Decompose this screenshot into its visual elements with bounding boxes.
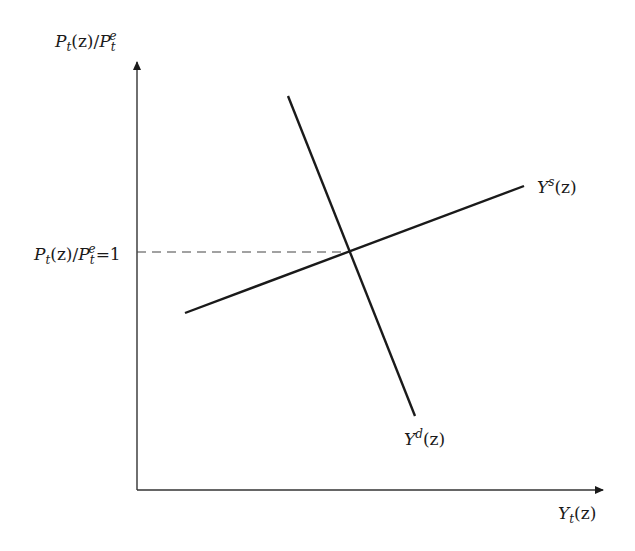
- eq-label-main: P: [34, 244, 45, 264]
- eq-label-value: =1: [96, 244, 121, 264]
- supply-label-arg: (z): [554, 177, 576, 197]
- eq-label-main2: P: [78, 244, 89, 264]
- demand-label: Yd(z): [404, 428, 445, 448]
- equilibrium-label: Pt(z)/Pte=1: [34, 243, 121, 266]
- supply-curve: [185, 186, 524, 313]
- y-axis-label: Pt(z)/Pte: [55, 30, 117, 53]
- x-label-main: Y: [558, 503, 569, 523]
- demand-label-sup: d: [415, 427, 423, 441]
- x-axis-label: Yt(z): [558, 505, 596, 525]
- supply-demand-diagram: [0, 0, 635, 551]
- demand-label-arg: (z): [423, 429, 445, 449]
- y-label-sup2: e: [110, 29, 117, 43]
- y-label-main2: P: [99, 31, 110, 51]
- eq-label-arg: (z)/: [50, 244, 78, 264]
- demand-label-main: Y: [404, 429, 415, 449]
- x-label-arg: (z): [574, 503, 596, 523]
- supply-label: Ys(z): [537, 176, 577, 196]
- eq-label-sup2: e: [89, 242, 96, 256]
- demand-curve: [288, 96, 415, 416]
- y-label-arg: (z)/: [71, 31, 99, 51]
- y-label-main: P: [55, 31, 66, 51]
- supply-label-main: Y: [537, 177, 548, 197]
